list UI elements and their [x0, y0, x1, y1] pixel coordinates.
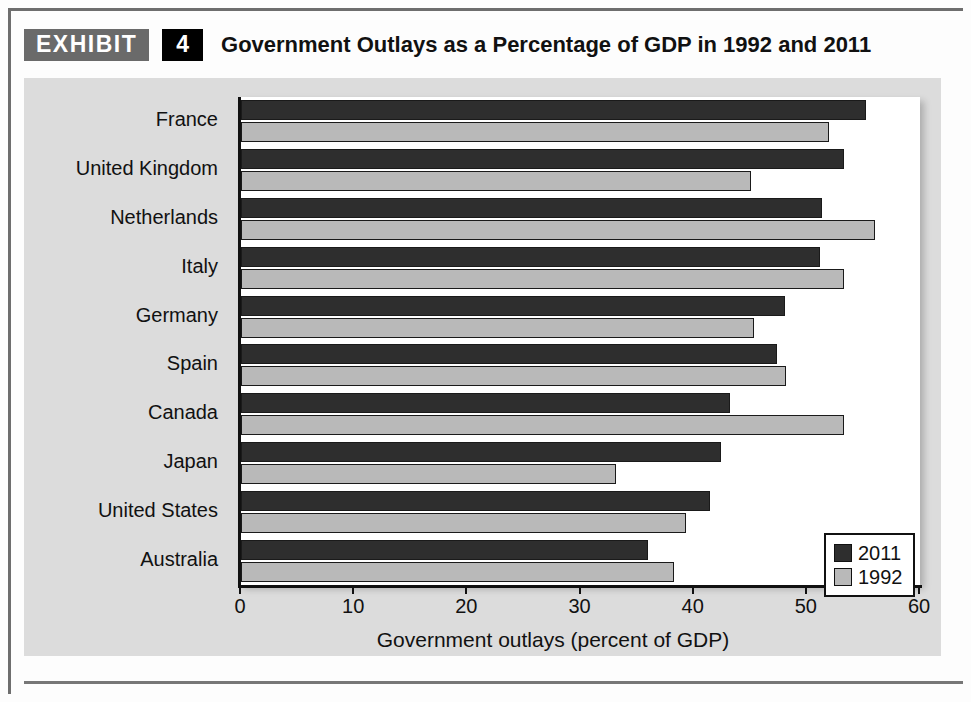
bar-2011 [241, 491, 710, 511]
legend-label-1992: 1992 [858, 567, 903, 587]
bar-2011 [241, 393, 730, 413]
x-tick-label: 40 [682, 595, 704, 618]
bar-1992 [241, 513, 686, 533]
bar-2011 [241, 540, 648, 560]
bar-2011 [241, 442, 721, 462]
bar-1992 [241, 318, 754, 338]
bar-1992 [241, 464, 616, 484]
x-tick-label: 60 [908, 595, 930, 618]
bar-2011 [241, 296, 785, 316]
x-tick-mark [465, 585, 467, 594]
bar-group [241, 341, 920, 390]
x-tick-mark [918, 585, 920, 594]
x-tick-label: 30 [568, 595, 590, 618]
legend-item-2011: 2011 [834, 541, 903, 565]
bar-2011 [241, 198, 822, 218]
bar-group [241, 97, 920, 146]
x-tick-mark [692, 585, 694, 594]
category-label: Japan [164, 450, 219, 473]
x-tick-label: 50 [795, 595, 817, 618]
x-tick-mark [239, 585, 241, 594]
category-label: Spain [167, 352, 218, 375]
x-axis-title: Government outlays (percent of GDP) [0, 628, 971, 652]
bar-1992 [241, 269, 844, 289]
bar-group [241, 487, 920, 536]
bar-2011 [241, 100, 866, 120]
bar-1992 [241, 171, 751, 191]
exhibit-header: EXHIBIT 4 Government Outlays as a Percen… [24, 26, 871, 64]
category-label: United Kingdom [76, 157, 218, 180]
category-label: Netherlands [110, 206, 218, 229]
x-tick-mark [805, 585, 807, 594]
page-frame-top-rule [8, 8, 963, 11]
bar-group [241, 536, 920, 585]
category-label: Germany [136, 304, 218, 327]
x-tick-label: 20 [455, 595, 477, 618]
bar-1992 [241, 366, 786, 386]
category-label: Italy [181, 255, 218, 278]
category-label: United States [98, 499, 218, 522]
bar-group [241, 292, 920, 341]
exhibit-number-badge: 4 [162, 29, 203, 61]
exhibit-title: Government Outlays as a Percentage of GD… [221, 32, 871, 58]
legend-label-2011: 2011 [858, 543, 901, 563]
bar-series-container [241, 97, 920, 585]
bar-2011 [241, 247, 820, 267]
bar-group [241, 146, 920, 195]
footer-rule [24, 681, 963, 684]
category-axis-labels: FranceUnited KingdomNetherlandsItalyGerm… [24, 97, 230, 585]
bar-group [241, 195, 920, 244]
legend-swatch-1992-icon [834, 568, 852, 586]
category-label: France [156, 108, 218, 131]
category-label: Canada [148, 401, 218, 424]
x-axis-title-text: Government outlays (percent of GDP) [377, 628, 729, 652]
x-tick-label: 10 [342, 595, 364, 618]
x-axis-ticks: 0102030405060 [0, 585, 971, 625]
x-tick-mark [579, 585, 581, 594]
exhibit-label-badge: EXHIBIT [24, 29, 149, 61]
category-label: Australia [140, 548, 218, 571]
x-tick-label: 0 [234, 595, 245, 618]
bar-2011 [241, 344, 777, 364]
bar-1992 [241, 562, 674, 582]
legend-swatch-2011-icon [834, 544, 852, 562]
bar-1992 [241, 122, 829, 142]
exhibit-page: EXHIBIT 4 Government Outlays as a Percen… [0, 0, 971, 702]
bar-1992 [241, 415, 844, 435]
bar-group [241, 439, 920, 488]
bar-group [241, 243, 920, 292]
bar-2011 [241, 149, 844, 169]
bar-group [241, 390, 920, 439]
bar-1992 [241, 220, 875, 240]
x-tick-mark [352, 585, 354, 594]
